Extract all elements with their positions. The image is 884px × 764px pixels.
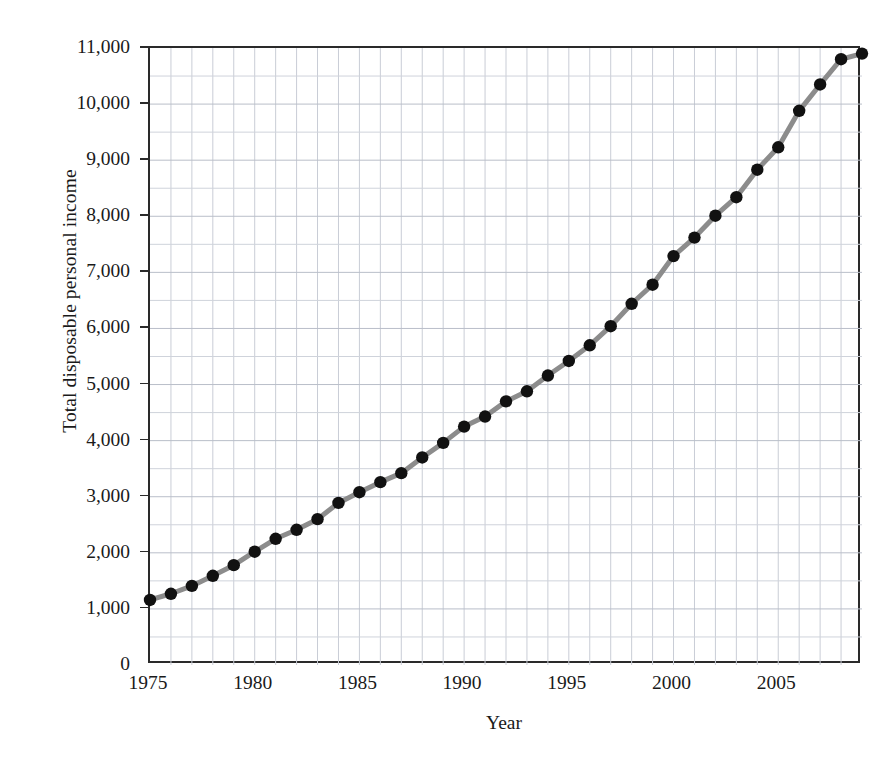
y-axis-tick-mark (140, 607, 148, 609)
y-axis-tick-mark (140, 158, 148, 160)
x-axis-tick-label: 2005 (731, 673, 821, 693)
plot-area (148, 46, 860, 663)
x-axis-tick-label: 1980 (208, 673, 298, 693)
chart-figure: Total disposable personal income 01,0002… (0, 0, 884, 764)
data-series-line (150, 48, 862, 665)
y-axis-tick-mark (140, 270, 148, 272)
y-axis-tick-mark (140, 214, 148, 216)
y-axis-tick-mark (140, 495, 148, 497)
y-axis-tick-label: 11,000 (12, 37, 130, 57)
x-axis-tick-label: 2000 (627, 673, 717, 693)
y-axis-tick-label: 1,000 (12, 598, 130, 618)
y-axis-tick-mark (140, 439, 148, 441)
y-axis-tick-mark (140, 383, 148, 385)
x-axis-title: Year (148, 712, 860, 734)
y-axis-tick-mark (140, 326, 148, 328)
y-axis-tick-mark (140, 551, 148, 553)
x-axis-tick-label: 1985 (312, 673, 402, 693)
y-axis-tick-mark (140, 46, 148, 48)
x-axis-tick-label: 1995 (522, 673, 612, 693)
x-axis-tick-label: 1975 (103, 673, 193, 693)
y-axis-tick-mark (140, 102, 148, 104)
y-axis-tick-label: 0 (12, 654, 130, 674)
y-axis-tick-label: 2,000 (12, 542, 130, 562)
x-axis-tick-label: 1990 (417, 673, 507, 693)
y-axis-title: Total disposable personal income (59, 61, 81, 541)
